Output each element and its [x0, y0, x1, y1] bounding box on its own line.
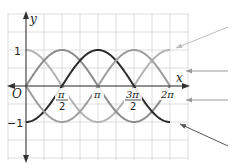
pointer-line [180, 124, 228, 146]
x-tick-label-pi-over-2: π 2 [55, 88, 69, 112]
pointer-arrowhead-icon [176, 43, 182, 48]
tick-numerator: 3π [126, 89, 139, 100]
tick-numerator: π [57, 89, 65, 100]
y-tick-label-neg1: −1 [7, 117, 23, 130]
y-axis-arrow-down-icon [23, 155, 29, 163]
tick-denominator: 2 [130, 101, 136, 112]
pointer-arrowhead-icon [186, 98, 192, 103]
tick-denominator: 2 [59, 101, 65, 112]
y-tick-label-1: 1 [14, 45, 21, 58]
origin-label: O [12, 87, 22, 101]
x-tick-label-3pi-over-2: 3π 2 [124, 88, 142, 112]
x-tick-label-pi: π [92, 88, 104, 100]
x-tick-label-2pi: 2π [160, 88, 178, 100]
x-axis-arrow-right-icon [182, 83, 190, 89]
y-axis-label: y [29, 12, 37, 26]
x-axis-label: x [176, 71, 183, 85]
tick-text: 2π [160, 89, 174, 100]
tick-text: π [93, 89, 101, 100]
pointer-line [176, 27, 228, 48]
trig-graph: y x O 1 −1 π 2 π 3π 2 2π [0, 0, 234, 168]
pointer-arrowhead-icon [186, 69, 192, 74]
y-axis-arrow-up-icon [23, 11, 29, 19]
